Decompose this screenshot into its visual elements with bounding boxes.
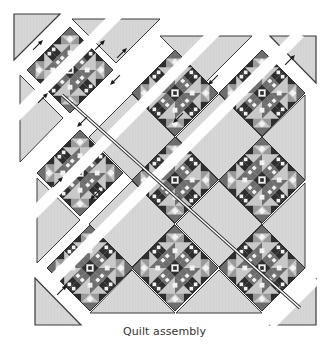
figure-caption: Quilt assembly: [0, 325, 329, 338]
arrow-icon: [108, 73, 121, 86]
arrow-icon: [55, 283, 68, 296]
quilt-assembly-figure: Quilt assembly: [0, 0, 329, 348]
quilt-assembly-diagram: [0, 0, 329, 348]
arrow-icon: [75, 115, 88, 128]
